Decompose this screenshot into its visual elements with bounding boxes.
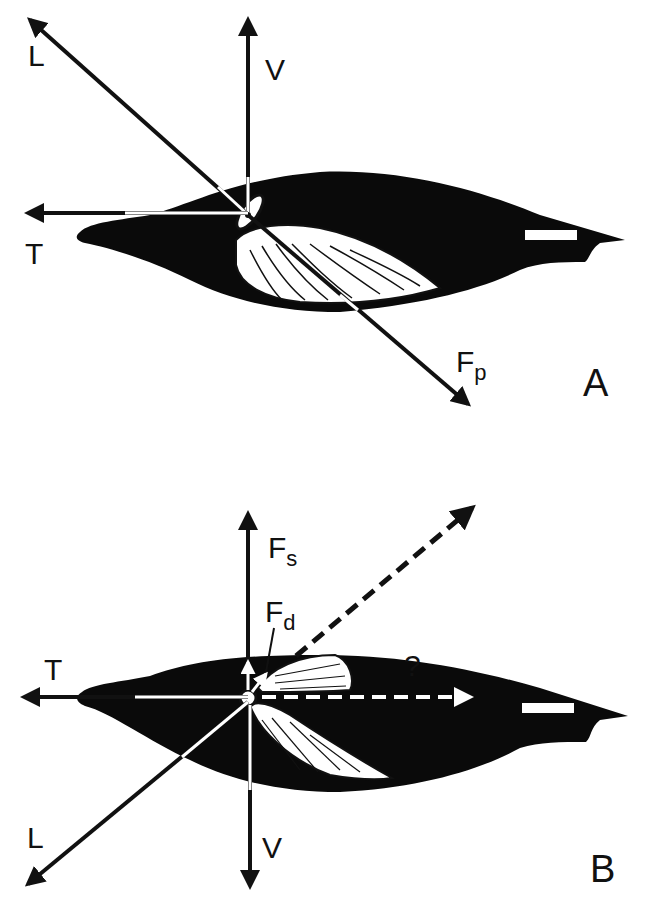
label-fd-b: Fd — [265, 595, 296, 635]
label-v-a: V — [265, 53, 285, 86]
tail-stripe-b — [522, 703, 574, 713]
vector-dashed-upright-b — [296, 508, 472, 656]
panel-b: Fs Fd T L V ? B — [24, 508, 628, 890]
vector-l-a — [30, 20, 245, 212]
label-l-a: L — [28, 39, 45, 72]
label-fs-b: Fs — [268, 531, 297, 571]
panel-label-b: B — [590, 848, 615, 890]
force-diagram: L V T Fp A — [0, 0, 656, 914]
label-l-b: L — [27, 821, 44, 854]
label-fp-a: Fp — [456, 345, 487, 385]
label-t-b: T — [44, 653, 62, 686]
tail-stripe-a — [525, 230, 577, 240]
label-v-b: V — [262, 831, 282, 864]
label-question-b: ? — [404, 649, 421, 682]
panel-label-a: A — [583, 362, 609, 404]
label-t-a: T — [25, 237, 43, 270]
panel-a: L V T Fp A — [25, 20, 625, 404]
